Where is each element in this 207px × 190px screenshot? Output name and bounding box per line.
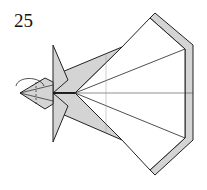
- white-fan: [75, 18, 185, 170]
- origami-diagram: [0, 0, 207, 190]
- head-flap: [20, 78, 53, 109]
